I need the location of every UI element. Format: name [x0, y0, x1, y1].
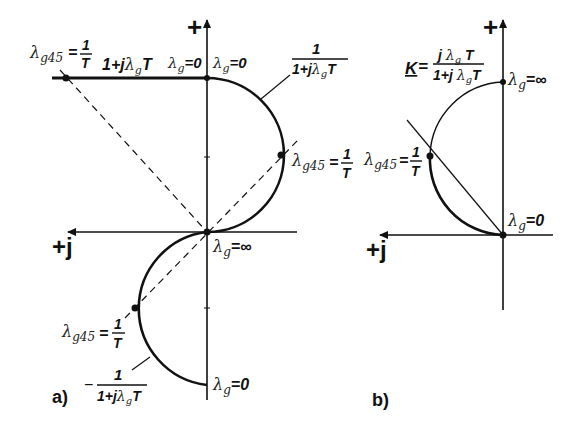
a-leader-upper: [261, 75, 290, 99]
a-upper-45-den: T: [342, 165, 352, 181]
a-origin-top-right-label: λg=0: [212, 54, 247, 75]
diagram-a: + +j λg45 = 1 T 1+jλgT λg=0 λg=0 1 1+jλg…: [29, 12, 353, 407]
b-formula-num: j λg T: [436, 47, 475, 65]
a-caption: a): [52, 387, 68, 407]
a-lower-curve-num: 1: [114, 366, 122, 383]
a-plus-j-label: +j: [52, 233, 73, 260]
b-semicircle-upper: [430, 82, 503, 155]
a-top-left-num: 1: [82, 37, 90, 53]
a-lower-curve-sign: −: [84, 376, 93, 393]
b-top-label: λg=∞: [507, 70, 547, 92]
a-lower-45-eq: =: [99, 325, 108, 342]
a-point-top-left: [63, 75, 70, 82]
b-plus-j-label: +j: [366, 236, 387, 263]
a-top-left-lambda: λg45: [29, 43, 63, 65]
b-caption: b): [372, 390, 389, 410]
b-formula-eq: =: [418, 57, 428, 76]
a-leader-lower: [132, 357, 150, 370]
a-point-center: [204, 229, 211, 236]
b-45-den: T: [411, 163, 421, 179]
b-origin-label: λg=0: [507, 211, 544, 233]
a-upper-45-lambda: λg45: [291, 151, 325, 173]
a-point-origin-top: [204, 75, 210, 81]
a-upper-curve-den: 1+jλgT: [292, 61, 337, 79]
a-upper-45-eq: =: [329, 154, 338, 171]
a-upper-45-num: 1: [343, 146, 351, 162]
a-dashed-line-top: [60, 70, 207, 232]
a-upper-semicircle: [207, 78, 284, 232]
circle-diagrams: + +j λg45 = 1 T 1+jλgT λg=0 λg=0 1 1+jλg…: [0, 0, 582, 436]
b-chord-line: [407, 120, 503, 235]
b-plus-label: +: [483, 12, 498, 42]
a-lower-semicircle: [139, 232, 207, 385]
a-point-upper-45: [278, 152, 285, 159]
a-upper-curve-num: 1: [312, 40, 320, 57]
b-formula-k: K: [405, 59, 419, 78]
b-point-origin: [500, 232, 507, 239]
a-top-left-eq: =: [68, 44, 77, 61]
a-dashed-line-diagonal: [125, 140, 298, 318]
a-point-lower-45: [132, 305, 139, 312]
a-lower-45-den: T: [113, 335, 123, 351]
b-45-lambda: λg45: [363, 150, 397, 172]
b-formula-den: 1+j λgT: [433, 67, 482, 85]
a-top-line-label: 1+jλgT: [102, 55, 153, 77]
a-center-label: λg=∞: [212, 237, 252, 259]
a-origin-top-left-label: λg=0: [167, 54, 202, 75]
a-lower-45-num: 1: [114, 316, 122, 332]
b-45-num: 1: [412, 144, 420, 160]
b-semicircle-lower: [430, 155, 503, 235]
b-point-45: [427, 153, 434, 160]
diagram-b: + +j K = j λg T 1+j λgT λg=∞ λg45 = 1 T …: [363, 12, 553, 410]
b-point-top: [500, 79, 506, 85]
a-lower-curve-den: 1+jλgT: [97, 388, 142, 406]
b-45-eq: =: [399, 152, 408, 169]
a-lower-45-lambda: λg45: [61, 322, 95, 344]
a-top-left-den: T: [81, 55, 91, 71]
a-bottom-label: λg=0: [212, 375, 249, 397]
a-plus-label: +: [187, 12, 202, 42]
